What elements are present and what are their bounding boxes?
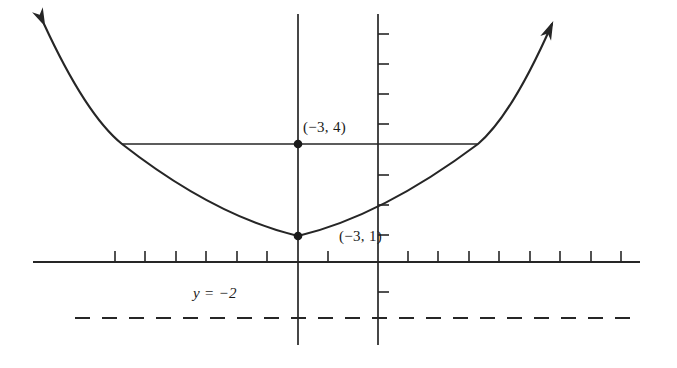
focus-point-marker <box>294 140 303 149</box>
parabola-figure: (−3, 4) (−3, 1) y = −2 <box>0 0 677 368</box>
vertex-point-marker <box>294 232 303 241</box>
x-axis <box>33 251 640 262</box>
x-axis-ticks <box>115 251 621 262</box>
focus-point-label: (−3, 4) <box>303 120 346 135</box>
vertex-point-label: (−3, 1) <box>339 229 382 244</box>
y-axis <box>378 14 389 345</box>
directrix-label: y = −2 <box>193 286 237 301</box>
figure-canvas <box>0 0 677 368</box>
y-axis-ticks <box>378 34 389 292</box>
